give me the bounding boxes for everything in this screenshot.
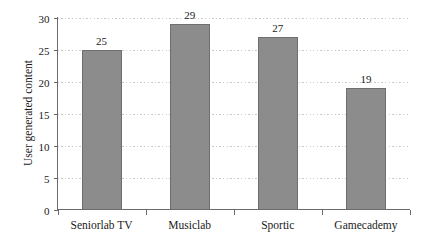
y-tick-marks	[54, 19, 58, 211]
x-tick-marks	[59, 210, 411, 215]
bar-chart: 051015202530 Seniorlab TVMusiclabSportic…	[0, 0, 428, 246]
bar	[347, 89, 386, 210]
y-axis-title: User generated content	[22, 59, 35, 166]
y-tick-label: 20	[39, 77, 51, 89]
bar	[171, 25, 210, 210]
x-category-label: Musiclab	[168, 219, 211, 231]
bar-value-label: 25	[96, 35, 108, 47]
bar	[259, 38, 298, 210]
x-category-label: Seniorlab TV	[71, 219, 134, 231]
bar-value-label: 29	[184, 9, 196, 21]
y-tick-label: 30	[39, 13, 51, 25]
y-tick-label: 0	[44, 205, 50, 217]
x-category-label: Gamecademy	[334, 219, 397, 232]
y-axis: 051015202530	[39, 13, 58, 217]
x-axis: Seniorlab TVMusiclabSporticGamecademy	[58, 210, 411, 232]
bar	[83, 51, 122, 210]
x-category-label: Sportic	[261, 219, 294, 232]
bar-value-label: 19	[360, 73, 372, 85]
y-tick-label: 25	[39, 45, 51, 57]
bars-group	[83, 25, 386, 210]
y-tick-label: 5	[44, 173, 50, 185]
y-tick-label: 15	[39, 109, 51, 121]
chart-canvas: 051015202530 Seniorlab TVMusiclabSportic…	[0, 0, 428, 246]
bar-value-label: 27	[272, 22, 284, 34]
y-tick-labels: 051015202530	[39, 13, 51, 217]
value-labels-group: 25292719	[96, 9, 372, 85]
y-tick-label: 10	[39, 141, 51, 153]
x-tick-labels: Seniorlab TVMusiclabSporticGamecademy	[71, 219, 398, 232]
